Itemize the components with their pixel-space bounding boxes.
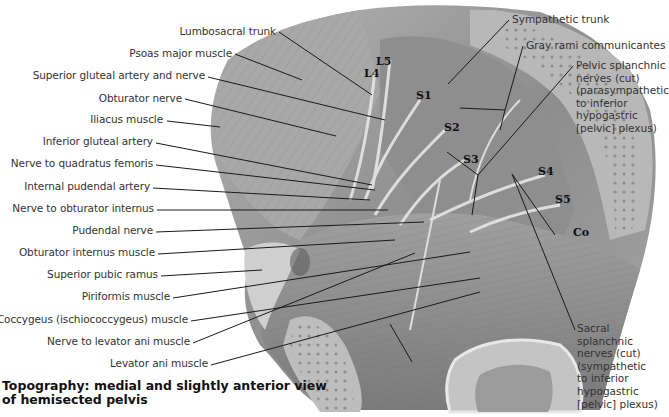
anatomy-label-inferior-gluteal-artery: Inferior gluteal artery bbox=[43, 135, 153, 148]
anatomy-label-nerve-to-quadratus-femoris: Nerve to quadratus femoris bbox=[11, 157, 153, 170]
caption-line-1: Topography: medial and slightly anterior… bbox=[2, 379, 327, 393]
anatomy-label-piriformis-muscle: Piriformis muscle bbox=[82, 290, 170, 303]
segment-label-s2: S2 bbox=[444, 121, 460, 134]
segment-label-l5: L5 bbox=[376, 55, 391, 68]
anatomy-label-pelvic-splanchnic: Pelvic splanchnic nerves (cut) (parasymp… bbox=[576, 59, 669, 135]
segment-label-s5: S5 bbox=[555, 193, 571, 206]
anatomy-label-obturator-internus-muscle: Obturator internus muscle bbox=[19, 246, 155, 259]
caption-line-2: of hemisected pelvis bbox=[2, 393, 327, 407]
anatomy-label-obturator-nerve: Obturator nerve bbox=[99, 92, 182, 105]
anatomy-label-nerve-to-levator-ani-muscle: Nerve to levator ani muscle bbox=[47, 335, 190, 348]
anatomy-label-superior-gluteal-artery-and-nerve: Superior gluteal artery and nerve bbox=[33, 69, 205, 82]
segment-label-l4: L4 bbox=[364, 67, 379, 80]
figure-caption: Topography: medial and slightly anterior… bbox=[2, 379, 327, 407]
anatomy-label-sacral: Sacral splanchnic nerves (cut) (sympathe… bbox=[577, 322, 658, 410]
anatomy-label-lumbosacral-trunk: Lumbosacral trunk bbox=[180, 25, 276, 38]
anatomy-label-sympathetic-trunk: Sympathetic trunk bbox=[512, 13, 609, 26]
segment-label-co: Co bbox=[573, 226, 589, 239]
anatomy-label-internal-pudendal-artery: Internal pudendal artery bbox=[24, 180, 150, 193]
anatomy-label-levator-ani-muscle: Levator ani muscle bbox=[110, 357, 208, 370]
anatomy-label-iliacus-muscle: Iliacus muscle bbox=[90, 113, 163, 126]
anatomy-label-superior-pubic-ramus: Superior pubic ramus bbox=[47, 268, 158, 281]
segment-label-s4: S4 bbox=[538, 165, 554, 178]
anatomy-label-pudendal-nerve: Pudendal nerve bbox=[72, 224, 153, 237]
anatomy-label-nerve-to-obturator-internus: Nerve to obturator internus bbox=[12, 202, 154, 215]
anatomy-label-gray-rami-communicantes: Gray rami communicantes bbox=[526, 39, 665, 52]
segment-label-s1: S1 bbox=[416, 89, 432, 102]
anatomy-label-coccygeus-ischiococcygeus-muscle: Coccygeus (ischiococcygeus) muscle bbox=[0, 313, 188, 326]
segment-label-s3: S3 bbox=[463, 153, 479, 166]
anatomy-label-psoas-major-muscle: Psoas major muscle bbox=[129, 47, 232, 60]
